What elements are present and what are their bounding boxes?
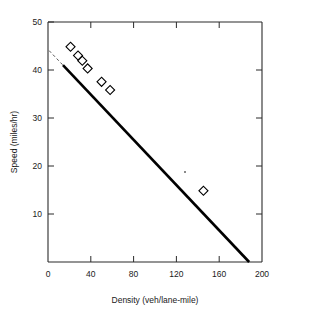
x-axis-title: Density (veh/lane-mile) [112,295,199,305]
y-tick-label-30: 30 [33,113,43,123]
y-tick-label-10: 10 [33,209,43,219]
stray-speck-artifact [184,171,186,173]
x-tick-label-120: 120 [169,269,183,279]
x-tick-label-200: 200 [255,269,269,279]
y-tick-label-20: 20 [33,161,43,171]
chart-figure: 10 20 30 40 50 0 40 80 120 160 200 Densi… [0,0,310,324]
x-tick-label-80: 80 [129,269,139,279]
x-tick-label-160: 160 [212,269,226,279]
x-tick-label-0: 0 [46,269,51,279]
x-tick-label-40: 40 [86,269,96,279]
y-axis-title: Speed (miles/hr) [9,111,19,174]
speed-density-chart: 10 20 30 40 50 0 40 80 120 160 200 Densi… [0,0,310,324]
y-tick-label-50: 50 [33,17,43,27]
y-tick-label-40: 40 [33,65,43,75]
